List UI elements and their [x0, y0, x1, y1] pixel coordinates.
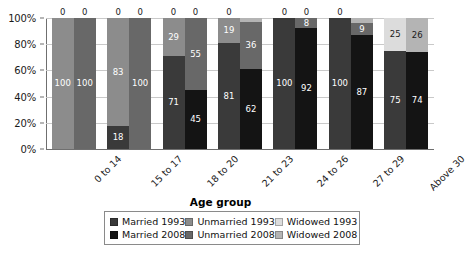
bar-segment-value: 8 [304, 19, 309, 28]
bar-segment[interactable]: 25 [384, 18, 406, 51]
bar-group: 0297105545 [157, 18, 212, 149]
stacked-bar-2008[interactable]: 0100 [129, 18, 151, 149]
y-axis-tick-mark [40, 122, 44, 123]
legend-swatch-icon [275, 231, 283, 239]
stacked-bar-1993[interactable]: 08318 [107, 18, 129, 149]
bar-top-label: 0 [304, 7, 309, 17]
x-axis-label: 27 to 29 [370, 153, 406, 189]
legend-item[interactable]: Married 1993 [110, 216, 185, 227]
bar-segment-value: 29 [168, 33, 179, 42]
bar-segment[interactable]: 26 [406, 18, 428, 52]
bar-top-label: 0 [337, 7, 342, 17]
bar-segment-value: 36 [246, 41, 257, 50]
y-axis-tick-mark [40, 96, 44, 97]
bar-group: 01000892 [268, 18, 323, 149]
bar-segment-value: 75 [390, 96, 401, 105]
y-axis-tick-label: 80% [14, 39, 36, 50]
bar-segment-value: 9 [359, 25, 364, 34]
legend-swatch-icon [185, 231, 193, 239]
legend-item[interactable]: Unmarried 1993 [185, 216, 274, 227]
x-axis-title: Age group [0, 196, 441, 208]
bar-segment[interactable]: 92 [295, 28, 317, 149]
legend-item[interactable]: Widowed 1993 [275, 216, 358, 227]
stacked-bar-2008[interactable]: 05545 [185, 18, 207, 149]
legend-item[interactable]: Widowed 2008 [275, 229, 358, 240]
x-axis-label: 24 to 26 [315, 153, 351, 189]
bar-group: 083180100 [101, 18, 156, 149]
plot-area: 0100010008318010002971055450198136620100… [46, 18, 434, 149]
legend-label: Married 2008 [122, 229, 185, 240]
bar-segment-value: 100 [132, 79, 148, 88]
bar-top-label: 0 [226, 7, 231, 17]
bar-segment[interactable]: 71 [163, 56, 185, 149]
stacked-bar-1993[interactable]: 2575 [384, 18, 406, 149]
bar-group: 25752674 [379, 18, 434, 149]
stacked-bar-2008[interactable]: 0100 [74, 18, 96, 149]
bar-segment[interactable]: 81 [218, 43, 240, 149]
y-axis-tick-mark [40, 149, 44, 150]
bar-segment[interactable]: 62 [240, 69, 262, 149]
bar-segment[interactable]: 100 [329, 18, 351, 149]
bar-segment[interactable]: 8 [295, 18, 317, 28]
stacked-bar-2008[interactable]: 2674 [406, 18, 428, 149]
stacked-bar-2008[interactable]: 0892 [295, 18, 317, 149]
legend-item[interactable]: Married 2008 [110, 229, 185, 240]
legend-swatch-icon [110, 231, 118, 239]
bar-segment-value: 19 [224, 26, 235, 35]
x-axis-line [46, 149, 434, 150]
stacked-bar-1993[interactable]: 0100 [329, 18, 351, 149]
bar-top-label: 0 [60, 7, 65, 17]
legend-label: Widowed 1993 [287, 216, 358, 227]
bar-segment[interactable]: 36 [240, 22, 262, 69]
bar-segment[interactable]: 100 [74, 18, 96, 149]
legend-row: Married 2008Unmarried 2008Widowed 2008 [110, 228, 355, 241]
x-axis-label: 18 to 20 [204, 153, 240, 189]
bar-group: 019813662 [212, 18, 267, 149]
legend-swatch-icon [110, 218, 118, 226]
bar-segment[interactable]: 75 [384, 51, 406, 149]
bar-top-label: 0 [193, 7, 198, 17]
bar-segment[interactable]: 45 [185, 90, 207, 149]
legend-swatch-icon [275, 218, 283, 226]
bar-segment[interactable]: 74 [406, 52, 428, 149]
stacked-bar-2008[interactable]: 987 [351, 18, 373, 149]
bar-top-label: 0 [137, 7, 142, 17]
bar-segment[interactable]: 100 [129, 18, 151, 149]
bar-segment-value: 18 [113, 133, 124, 142]
bar-segment-value: 55 [190, 50, 201, 59]
bar-segment[interactable]: 29 [163, 18, 185, 56]
bar-segment-value: 26 [412, 31, 423, 40]
bar-segment-value: 62 [246, 105, 257, 114]
legend-item[interactable]: Unmarried 2008 [185, 229, 274, 240]
y-axis-tick-mark [40, 18, 44, 19]
bar-segment-value: 87 [356, 88, 367, 97]
bar-segment[interactable]: 100 [273, 18, 295, 149]
bar-segment[interactable]: 19 [218, 18, 240, 43]
bar-top-label: 0 [115, 7, 120, 17]
stacked-bar-2008[interactable]: 3662 [240, 18, 262, 149]
legend-label: Unmarried 2008 [197, 229, 274, 240]
y-axis: 0%20%40%60%80%100% [0, 18, 44, 149]
legend-swatch-icon [185, 218, 193, 226]
y-axis-tick-mark [40, 70, 44, 71]
bar-segment-value: 100 [55, 79, 71, 88]
legend-label: Married 1993 [122, 216, 185, 227]
stacked-bar-1993[interactable]: 0100 [273, 18, 295, 149]
y-axis-tick-label: 60% [14, 65, 36, 76]
bar-segment[interactable]: 55 [185, 18, 207, 90]
bar-top-label: 0 [282, 7, 287, 17]
bar-segment[interactable]: 87 [351, 35, 373, 149]
bar-segment-value: 71 [168, 98, 179, 107]
bar-segment-value: 81 [224, 92, 235, 101]
bar-segment[interactable]: 83 [107, 18, 129, 126]
x-axis-label: Above 30 [427, 153, 467, 193]
stacked-bar-1993[interactable]: 02971 [163, 18, 185, 149]
stacked-bar-1993[interactable]: 01981 [218, 18, 240, 149]
bar-segment-value: 83 [113, 68, 124, 77]
stacked-bar-1993[interactable]: 0100 [52, 18, 74, 149]
bar-segment-value: 100 [77, 79, 93, 88]
bar-segment[interactable]: 9 [351, 23, 373, 35]
bar-segment[interactable]: 100 [52, 18, 74, 149]
bar-segment-value: 92 [301, 84, 312, 93]
bar-segment[interactable]: 18 [107, 126, 129, 149]
